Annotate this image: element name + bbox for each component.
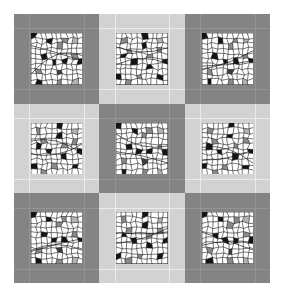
frame-guide-line <box>14 89 99 90</box>
frame-guide-line <box>14 28 99 29</box>
frame-guide-line <box>169 14 170 104</box>
quilt-tile-r0-c2 <box>185 14 270 104</box>
frame-guide-line <box>84 104 85 194</box>
frame-guide-line <box>255 14 256 104</box>
tile-grid <box>14 14 270 283</box>
frame-guide-line <box>99 269 184 270</box>
frame-guide-line <box>84 193 85 283</box>
mesh-patch-b <box>202 123 254 175</box>
frame-guide-line <box>14 269 99 270</box>
quilt-tile-r2-c0 <box>14 193 99 283</box>
frame-guide-line <box>14 208 99 209</box>
frame-guide-line <box>255 193 256 283</box>
mesh-patch-a <box>202 33 254 85</box>
frame-guide-line <box>185 269 270 270</box>
frame-guide-line <box>84 14 85 104</box>
frame-guide-line <box>185 118 270 119</box>
quilt-tile-r2-c1 <box>99 193 184 283</box>
frame-guide-line <box>14 118 99 119</box>
frame-guide-line <box>185 28 270 29</box>
frame-guide-line <box>99 28 184 29</box>
frame-guide-line <box>169 104 170 194</box>
quilt-tile-r1-c1 <box>99 104 184 194</box>
quilt-tile-r0-c1 <box>99 14 184 104</box>
mesh-patch-b <box>116 212 168 264</box>
mesh-patch-a <box>31 33 83 85</box>
quilt-tile-r1-c0 <box>14 104 99 194</box>
quilt-tile-r0-c0 <box>14 14 99 104</box>
frame-guide-line <box>185 208 270 209</box>
frame-guide-line <box>185 179 270 180</box>
frame-guide-line <box>99 208 184 209</box>
frame-guide-line <box>99 179 184 180</box>
frame-guide-line <box>255 104 256 194</box>
frame-guide-line <box>169 193 170 283</box>
mesh-patch-b <box>116 33 168 85</box>
mesh-patch-a <box>31 212 83 264</box>
mesh-patch-a <box>116 123 168 175</box>
mesh-patch-b <box>31 123 83 175</box>
quilt-tile-r1-c2 <box>185 104 270 194</box>
mesh-patch-a <box>202 212 254 264</box>
quilt-tile-r2-c2 <box>185 193 270 283</box>
frame-guide-line <box>185 89 270 90</box>
frame-guide-line <box>99 118 184 119</box>
frame-guide-line <box>99 89 184 90</box>
frame-guide-line <box>14 179 99 180</box>
